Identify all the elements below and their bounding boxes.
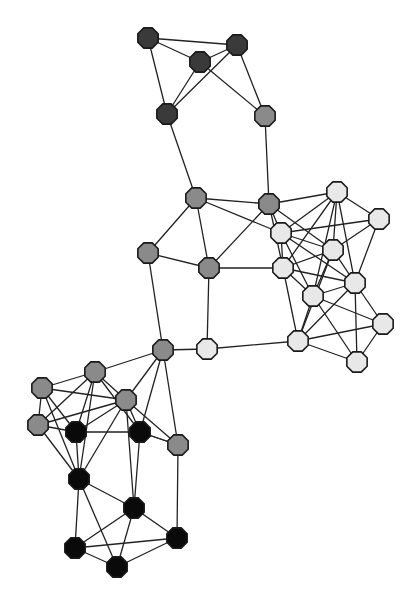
graph-edge (177, 445, 178, 538)
graph-node[interactable] (271, 223, 291, 243)
graph-edge (42, 388, 126, 400)
graph-node[interactable] (347, 352, 367, 372)
graph-node[interactable] (116, 390, 136, 410)
graph-node[interactable] (255, 106, 275, 126)
graph-node[interactable] (28, 415, 48, 435)
graph-node[interactable] (167, 528, 187, 548)
graph-edge (148, 38, 167, 114)
graph-edge (265, 116, 269, 204)
graph-edge (148, 253, 163, 350)
graph-edge (140, 350, 163, 432)
graph-edge (207, 268, 209, 349)
graph-node[interactable] (303, 286, 323, 306)
graph-node[interactable] (32, 378, 52, 398)
graph-edge (298, 324, 383, 341)
graph-node[interactable] (259, 194, 279, 214)
graph-node[interactable] (288, 331, 308, 351)
graph-node[interactable] (273, 258, 293, 278)
graph-node[interactable] (199, 258, 219, 278)
graph-node[interactable] (197, 339, 217, 359)
graph-edge (207, 341, 298, 349)
network-graph-figure (0, 0, 410, 601)
graph-node[interactable] (107, 557, 127, 577)
graph-edge (355, 283, 357, 362)
graph-node[interactable] (227, 35, 247, 55)
graph-node[interactable] (327, 182, 347, 202)
graph-node[interactable] (157, 104, 177, 124)
graph-edge (167, 114, 196, 198)
graph-node[interactable] (323, 240, 343, 260)
graph-node[interactable] (369, 209, 389, 229)
graph-node[interactable] (138, 28, 158, 48)
edge-layer (38, 38, 383, 567)
graph-node[interactable] (85, 362, 105, 382)
graph-edge (134, 432, 140, 508)
graph-node[interactable] (345, 273, 365, 293)
graph-node[interactable] (190, 52, 210, 72)
graph-node[interactable] (153, 340, 173, 360)
node-layer (28, 28, 393, 577)
graph-edge (75, 538, 177, 548)
graph-edge (209, 204, 269, 268)
graph-edge (313, 296, 357, 362)
graph-edge (163, 350, 178, 445)
graph-node[interactable] (69, 469, 89, 489)
network-graph-canvas (0, 0, 410, 601)
graph-node[interactable] (130, 422, 150, 442)
graph-node[interactable] (373, 314, 393, 334)
graph-edge (200, 62, 265, 116)
graph-node[interactable] (65, 538, 85, 558)
graph-node[interactable] (66, 422, 86, 442)
graph-node[interactable] (186, 188, 206, 208)
graph-node[interactable] (168, 435, 188, 455)
graph-node[interactable] (138, 243, 158, 263)
graph-node[interactable] (124, 498, 144, 518)
